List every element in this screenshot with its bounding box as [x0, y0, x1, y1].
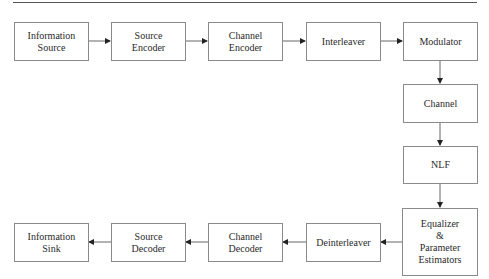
- block-channel-decoder: Channel Decoder: [208, 223, 283, 262]
- block-interleaver: Interleaver: [306, 22, 381, 61]
- block-deinterleaver: Deinterleaver: [306, 223, 381, 262]
- block-nlf: NLF: [403, 146, 478, 184]
- block-channel-encoder: Channel Encoder: [208, 22, 283, 61]
- block-source-decoder: Source Decoder: [111, 223, 186, 262]
- block-channel: Channel: [403, 84, 478, 123]
- block-modulator: Modulator: [403, 22, 478, 61]
- block-source-encoder: Source Encoder: [111, 22, 186, 61]
- block-information-source: Information Source: [14, 22, 89, 61]
- block-equalizer-parameter-estimators: Equalizer & Parameter Estimators: [402, 208, 478, 276]
- block-information-sink: Information Sink: [14, 223, 89, 262]
